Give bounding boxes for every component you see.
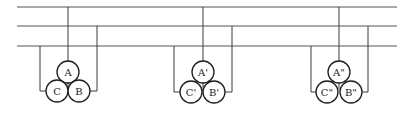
cable-a-label: A': [197, 67, 208, 78]
tap-b-wire: [90, 26, 97, 91]
tap-b-wire: [225, 26, 232, 92]
cable-group-1: A C B: [40, 7, 97, 102]
cable-a-label: A: [63, 67, 72, 78]
tap-c-wire: [174, 46, 180, 92]
cable-b-label: B": [345, 87, 357, 98]
cable-c-label: C': [186, 87, 196, 98]
cable-a-label: A": [332, 67, 345, 78]
cable-b-label: B: [75, 86, 82, 97]
busbar-diagram: A C B A' C' B' A" C" B": [0, 0, 412, 113]
cable-c-label: C: [53, 86, 61, 97]
cable-group-3: A" C" B": [311, 7, 368, 103]
tap-b-wire: [362, 26, 368, 92]
cable-b-label: B': [209, 87, 219, 98]
tap-c-wire: [311, 46, 316, 92]
tap-c-wire: [40, 46, 46, 91]
cable-c-label: C": [321, 87, 333, 98]
cable-group-2: A' C' B': [174, 7, 232, 103]
